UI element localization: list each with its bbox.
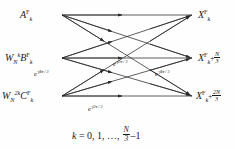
output-x1-offset-denominator: 3	[214, 58, 219, 64]
range-caption: k = 0, 1, …, N3–1	[72, 126, 140, 143]
input-label-b: WNkBFk	[5, 52, 33, 66]
twiddle-right-4pi-exponent: -j4π / 3	[158, 69, 170, 74]
arrowhead-into-x0-from-b	[150, 16, 190, 29]
output-x0-superscript: F	[204, 8, 207, 15]
output-x1-offset-fraction: N3	[214, 51, 219, 65]
input-c-subscript: k	[30, 96, 33, 103]
input-b-subscript: k	[30, 58, 33, 65]
twiddle-center-2pi: e-j2π / 3	[113, 60, 128, 68]
edge-a-to-x1-arrow	[62, 15, 112, 32]
output-label-x2: XFk+2N3	[196, 89, 221, 104]
edge-c-to-x1-arrow	[62, 81, 112, 96]
twiddle-bottom-2pi-exponent: -j2π / 3	[91, 104, 103, 109]
output-x2-offset-fraction: 2N3	[212, 89, 220, 103]
input-b-prefix-sub: N	[13, 58, 17, 65]
arrowhead-into-x0-from-c	[150, 16, 190, 41]
edge-b-to-x0-arrow	[62, 42, 112, 59]
output-x0-subscript: k	[208, 15, 211, 22]
output-x2-offset-denominator: 3	[212, 96, 220, 102]
twiddle-right-4pi: e-j4π / 3	[155, 70, 170, 78]
twiddle-left-4pi: e-j4π / 3	[34, 70, 49, 78]
twiddle-bottom-2pi: e-j2π / 3	[88, 105, 103, 113]
input-b-superscript: F	[26, 51, 29, 58]
twiddle-center-2pi-exponent: -j2π / 3	[116, 59, 128, 64]
caption-fraction: N3	[123, 126, 130, 143]
output-label-x0: XFk	[198, 9, 210, 23]
arrowhead-into-x2-from-b	[150, 84, 190, 96]
input-label-a: AFk	[20, 9, 32, 23]
arrowhead-into-x1-from-a	[150, 44, 190, 57]
twiddle-left-4pi-exponent: -j4π / 3	[37, 69, 49, 74]
input-label-c: WN2kCFk	[2, 90, 33, 104]
input-c-prefix-sub: N	[10, 96, 14, 103]
edge-a-to-x2-arrow	[62, 15, 104, 41]
output-label-x1: XFk+N3	[198, 51, 220, 66]
caption-tail: –1	[130, 130, 140, 141]
caption-equals: = 0, 1, …,	[79, 130, 120, 141]
input-a-superscript: F	[26, 8, 29, 15]
edge-c-to-x0-arrow	[62, 70, 104, 96]
input-c-base: C	[20, 90, 27, 101]
input-c-superscript: F	[27, 89, 30, 96]
caption-fraction-denominator: 3	[123, 135, 130, 143]
edge-b-to-x2-arrow	[62, 58, 112, 73]
arrowhead-into-x1-from-c	[150, 59, 190, 71]
radix3-butterfly-figure: AFk WNkBFk WN2kCFk XFk XFk+N3 XFk+2N3 e-…	[0, 0, 235, 149]
input-a-subscript: k	[30, 15, 33, 22]
